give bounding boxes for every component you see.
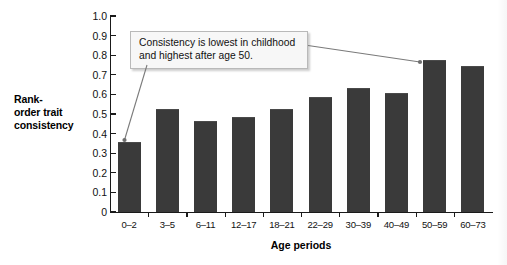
y-axis-tick-label: 0.1 (83, 186, 107, 198)
y-axis-tick-label: 0.5 (83, 108, 107, 120)
page-edge-shadow (497, 0, 507, 265)
y-axis-tick-label: 0.7 (83, 69, 107, 81)
bar (423, 60, 446, 212)
bar (309, 97, 332, 212)
x-axis-tick-label: 3–5 (148, 219, 186, 231)
y-axis-tick-label: 0.6 (83, 88, 107, 100)
x-axis-tick-label: 50–59 (416, 219, 454, 231)
y-axis-tick-label: 0.9 (83, 30, 107, 42)
bar (385, 93, 408, 212)
y-axis-tick-label: 0.2 (83, 167, 107, 179)
annotation-line-2: and highest after age 50. (139, 50, 300, 63)
x-axis-tick-mark (148, 212, 149, 217)
x-axis-tick-mark (186, 212, 187, 217)
x-axis-tick-label: 6–11 (186, 219, 224, 231)
x-axis-tick-mark (416, 212, 417, 217)
bar (461, 66, 484, 212)
x-axis-tick-label: 60–73 (454, 219, 492, 231)
y-axis-tick-label: 0.3 (83, 147, 107, 159)
x-axis-tick-label: 18–21 (263, 219, 301, 231)
annotation-callout: Consistency is lowest in childhood and h… (130, 31, 308, 69)
y-axis-tick-label: 0.8 (83, 49, 107, 61)
annotation-line-1: Consistency is lowest in childhood (139, 37, 300, 50)
x-axis-tick-label: 22–29 (301, 219, 339, 231)
x-axis-tick-mark (454, 212, 455, 217)
bar (232, 117, 255, 212)
x-axis-tick-label: 0–2 (110, 219, 148, 231)
bar-chart: Rank- order trait consistency 1.00.90.80… (0, 0, 507, 265)
x-axis-tick-mark (263, 212, 264, 217)
x-axis-tick-mark (339, 212, 340, 217)
x-axis-tick-label: 12–17 (225, 219, 263, 231)
y-axis-tick-label: 1.0 (83, 10, 107, 22)
x-axis-title: Age periods (110, 239, 492, 251)
bar (118, 142, 141, 212)
x-axis-tick-mark (225, 212, 226, 217)
bar (347, 88, 370, 212)
y-axis-tick-label: 0.4 (83, 128, 107, 140)
bar (270, 109, 293, 212)
x-axis-tick-label: 30–39 (339, 219, 377, 231)
bar (156, 109, 179, 212)
x-axis-tick-mark (377, 212, 378, 217)
bar (194, 121, 217, 212)
y-axis-tick-label: 0 (83, 206, 107, 218)
x-axis-tick-label: 40–49 (377, 219, 415, 231)
x-axis-tick-mark (301, 212, 302, 217)
